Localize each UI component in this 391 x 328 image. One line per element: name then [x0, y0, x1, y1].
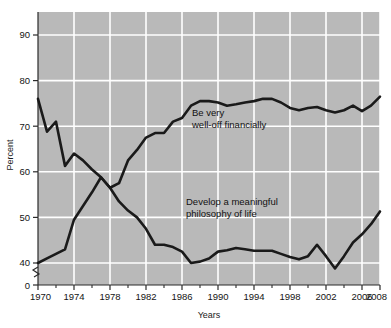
y-tick-label-50: 50	[19, 212, 30, 223]
y-tick-label-80: 80	[19, 75, 30, 86]
x-tick-label-1974: 1974	[63, 291, 84, 302]
x-tick-label-1994: 1994	[243, 291, 264, 302]
annotation-philosophy-line-2: philosophy of life	[186, 208, 257, 219]
y-axis-ticks: 405060708090	[19, 29, 38, 268]
x-tick-label-1982: 1982	[135, 291, 156, 302]
x-tick-label-2002: 2002	[315, 291, 336, 302]
x-tick-label-1990: 1990	[207, 291, 228, 302]
x-tick-label-1970: 1970	[30, 291, 51, 302]
annotation-well-off-line-1: Be very	[192, 107, 224, 118]
annotation-philosophy-line-1: Develop a meaningful	[186, 196, 278, 207]
y-tick-label-90: 90	[19, 29, 30, 40]
x-tick-label-1978: 1978	[99, 291, 120, 302]
chart-container: 405060708090 0 1970197419781982198619901…	[0, 0, 391, 328]
y-tick-label-40: 40	[19, 257, 30, 268]
line-chart: 405060708090 0 1970197419781982198619901…	[0, 0, 391, 328]
x-axis-ticks: 1970197419781982198619901994199820022006…	[30, 285, 387, 302]
plot-background	[38, 12, 380, 285]
annotation-well-off-line-2: well-off financially	[191, 119, 267, 130]
x-tick-label-1986: 1986	[171, 291, 192, 302]
y-tick-label-70: 70	[19, 121, 30, 132]
y-tick-label-zero: 0	[25, 280, 30, 291]
y-axis-title: Percent	[5, 139, 15, 171]
x-axis-title: Years	[198, 310, 221, 320]
y-axis-zero-tick: 0	[25, 280, 38, 291]
x-tick-label-1998: 1998	[279, 291, 300, 302]
x-tick-label-2008: 2008	[366, 291, 387, 302]
y-tick-label-60: 60	[19, 166, 30, 177]
